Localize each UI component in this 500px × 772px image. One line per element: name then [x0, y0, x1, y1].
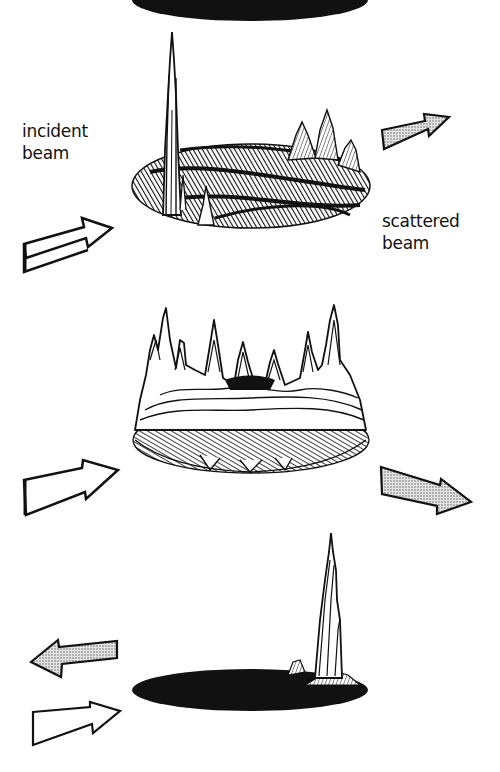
- scattered-label-line1: scattered: [382, 210, 460, 232]
- incident-beam-arrow: [33, 702, 120, 745]
- incident-beam-label: incident beam: [22, 120, 88, 164]
- scattered-beam-label: scattered beam: [382, 210, 460, 254]
- scattered-beam-arrow: [382, 114, 449, 149]
- incident-beam-arrow: [24, 218, 112, 272]
- figure-canvas: [0, 0, 500, 772]
- incident-label-line1: incident: [22, 120, 88, 142]
- incident-label-line2: beam: [22, 142, 88, 164]
- backscattered-beam-arrow: [31, 640, 117, 677]
- scattered-beam-arrow: [381, 467, 471, 514]
- scattered-label-line2: beam: [382, 232, 460, 254]
- panel-middle-surface: [133, 305, 369, 473]
- panel-top-surface: [132, 32, 370, 228]
- incident-beam-arrow: [24, 460, 118, 515]
